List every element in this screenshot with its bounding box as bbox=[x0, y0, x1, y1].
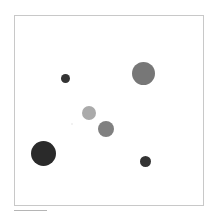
horizontal-scrollbar[interactable] bbox=[14, 210, 47, 211]
circle-c1 bbox=[61, 74, 70, 83]
circle-c5 bbox=[31, 141, 56, 166]
circle-c7 bbox=[71, 123, 73, 125]
circle-c4 bbox=[98, 121, 114, 137]
circle-c6 bbox=[140, 156, 151, 167]
circle-c2 bbox=[132, 62, 155, 85]
canvas-frame bbox=[14, 15, 204, 206]
circle-c3 bbox=[82, 106, 96, 120]
